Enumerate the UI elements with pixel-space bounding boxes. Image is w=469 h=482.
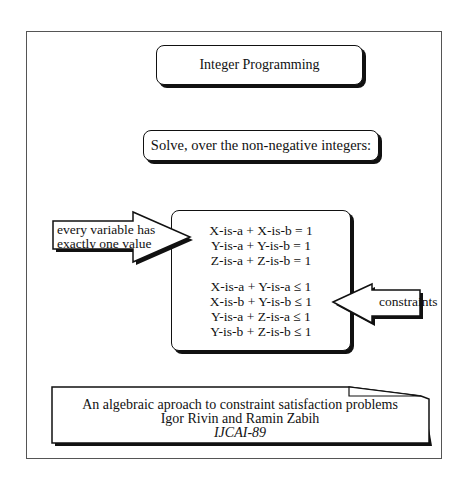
paper-title: An algebraic aproach to constraint satis…: [52, 398, 428, 412]
paper-venue: IJCAI-89: [52, 426, 428, 440]
right-arrow-label: constraints: [379, 295, 438, 309]
label-line: every variable has: [57, 223, 155, 237]
folded-corner-icon: [349, 387, 421, 396]
left-arrow-label: every variable has exactly one value: [57, 223, 155, 251]
paper-authors: Igor Rivin and Ramin Zabih: [52, 412, 428, 426]
label-line: exactly one value: [57, 237, 155, 251]
reference-text: An algebraic aproach to constraint satis…: [52, 398, 428, 440]
